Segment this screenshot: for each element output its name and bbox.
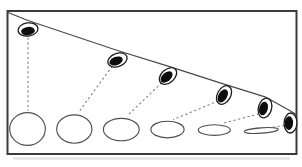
- projection-ellipse-2: [57, 115, 92, 143]
- projection-ellipse-3: [103, 118, 139, 140]
- foreshortening-diagram: [0, 0, 302, 167]
- projection-ellipse-4: [151, 121, 184, 138]
- projection-ellipse-5: [198, 125, 230, 136]
- projection-ellipse-1: [10, 113, 46, 146]
- tilted-disk-6: [284, 113, 297, 133]
- diagram-canvas: [0, 0, 302, 167]
